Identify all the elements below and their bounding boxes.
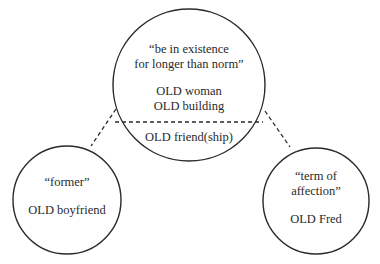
central-node-lower-example: OLD friend(ship): [119, 130, 259, 145]
edge-right: [265, 111, 290, 147]
right-node-circle: [263, 148, 369, 254]
left-node-circle: [13, 146, 121, 254]
left-node-gloss: “former”: [17, 175, 117, 190]
edge-left: [91, 109, 116, 146]
central-gloss-line-2: for longer than norm”: [119, 57, 259, 72]
central-example-1: OLD woman: [119, 84, 259, 99]
central-node-examples: OLD woman OLD building: [119, 84, 259, 114]
central-node-gloss: “be in existence for longer than norm”: [119, 42, 259, 72]
central-gloss-line-1: “be in existence: [119, 42, 259, 57]
central-example-2: OLD building: [119, 99, 259, 114]
left-node-example: OLD boyfriend: [17, 203, 117, 218]
right-node-gloss: “term of affection”: [266, 169, 366, 199]
right-node-example: OLD Fred: [266, 212, 366, 227]
